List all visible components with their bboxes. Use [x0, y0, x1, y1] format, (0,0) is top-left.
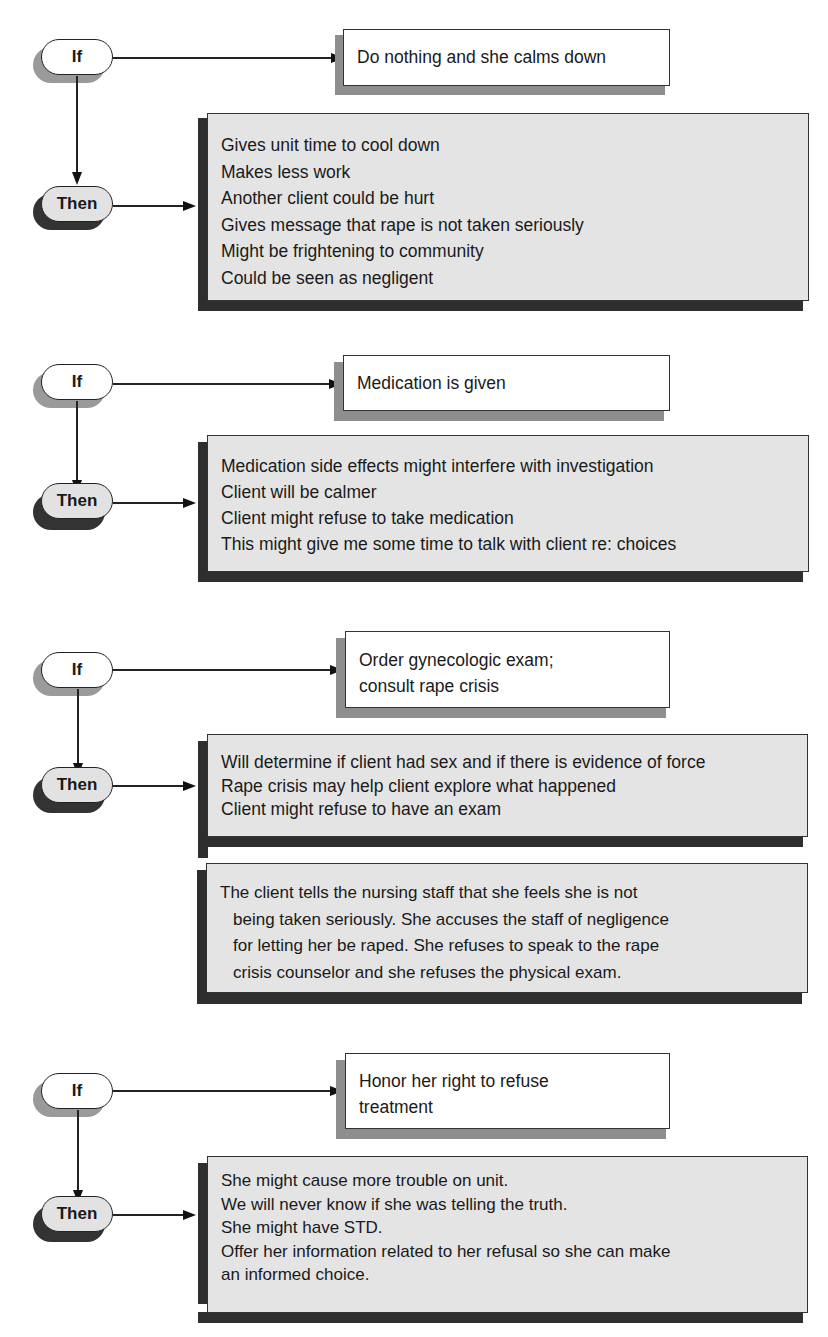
- box-shadow: [197, 870, 206, 1004]
- then-node: Then: [41, 767, 113, 803]
- connector-line: [76, 76, 78, 173]
- consequence-item: Makes less work: [221, 159, 795, 186]
- action-text: Honor her right to refuse: [359, 1068, 656, 1094]
- consequence-item: This might give me some time to talk wit…: [221, 531, 795, 557]
- then-label: Then: [57, 194, 98, 214]
- connector-line: [113, 57, 333, 59]
- consequence-item: Could be seen as negligent: [221, 265, 795, 292]
- box-shadow: [197, 992, 802, 1004]
- if-node: If: [41, 1073, 113, 1109]
- connector-line: [113, 785, 185, 787]
- box-shadow: [336, 1128, 666, 1139]
- consequence-item: Client might refuse to have an exam: [221, 798, 794, 822]
- consequence-item: Will determine if client had sex and if …: [221, 751, 794, 775]
- if-action-box: Medication is given: [343, 355, 670, 411]
- then-node: Then: [41, 483, 113, 519]
- connector-line: [113, 502, 185, 504]
- if-label: If: [72, 372, 82, 392]
- if-action-box: Do nothing and she calms down: [343, 29, 670, 86]
- arrow-right-icon: [183, 781, 196, 791]
- then-label: Then: [57, 491, 98, 511]
- then-consequences-box: Will determine if client had sex and if …: [207, 734, 808, 837]
- consequence-item: She might cause more trouble on unit.: [221, 1169, 794, 1193]
- narrative-line: crisis counselor and she refuses the phy…: [220, 960, 794, 987]
- consequence-item: Rape crisis may help client explore what…: [221, 775, 794, 799]
- consequence-item: Might be frightening to community: [221, 238, 795, 265]
- if-action-box: Order gynecologic exam; consult rape cri…: [345, 631, 670, 708]
- if-label: If: [72, 660, 82, 680]
- consequence-item: We will never know if she was telling th…: [221, 1193, 794, 1217]
- consequence-item: Gives message that rape is not taken ser…: [221, 212, 795, 239]
- box-shadow: [336, 707, 666, 718]
- then-label: Then: [57, 1204, 98, 1224]
- if-label: If: [72, 1081, 82, 1101]
- consequence-item: Gives unit time to cool down: [221, 132, 795, 159]
- if-node: If: [41, 652, 113, 688]
- arrow-right-icon: [183, 201, 196, 211]
- action-text: Order gynecologic exam;: [359, 647, 656, 673]
- box-shadow: [198, 300, 803, 311]
- then-consequences-box: Medication side effects might interfere …: [207, 435, 809, 572]
- box-shadow: [336, 638, 345, 718]
- then-consequences-box: Gives unit time to cool down Makes less …: [207, 113, 809, 301]
- narrative-line: being taken seriously. She accuses the s…: [220, 907, 794, 934]
- box-shadow: [334, 410, 664, 421]
- then-node: Then: [41, 1196, 113, 1232]
- connector-line: [113, 669, 332, 671]
- action-text: consult rape crisis: [359, 673, 656, 699]
- arrow-down-icon: [72, 172, 82, 185]
- then-label: Then: [57, 775, 98, 795]
- arrow-right-icon: [183, 498, 196, 508]
- if-node: If: [41, 39, 113, 75]
- consequence-item: Client will be calmer: [221, 479, 795, 505]
- arrow-right-icon: [183, 1210, 196, 1220]
- action-text: Medication is given: [357, 373, 656, 394]
- consequence-item: Another client could be hurt: [221, 185, 795, 212]
- connector-line: [77, 689, 79, 765]
- consequence-item: She might have STD.: [221, 1216, 794, 1240]
- narrative-line: for letting her be raped. She refuses to…: [220, 933, 794, 960]
- action-text: treatment: [359, 1094, 656, 1120]
- consequence-item: Offer her information related to her ref…: [221, 1240, 794, 1264]
- connector-line: [77, 1110, 79, 1192]
- narrative-box: The client tells the nursing staff that …: [206, 863, 808, 993]
- if-label: If: [72, 47, 82, 67]
- box-shadow: [198, 1312, 803, 1323]
- consequence-item: Client might refuse to take medication: [221, 505, 795, 531]
- box-shadow: [198, 836, 803, 847]
- connector-line: [113, 205, 185, 207]
- box-shadow: [335, 85, 665, 95]
- then-consequences-box: She might cause more trouble on unit. We…: [207, 1156, 808, 1313]
- action-text: Do nothing and she calms down: [357, 47, 656, 68]
- if-action-box: Honor her right to refuse treatment: [345, 1053, 670, 1129]
- if-node: If: [41, 364, 113, 400]
- connector-line: [76, 401, 78, 481]
- connector-line: [113, 383, 331, 385]
- box-shadow: [198, 571, 803, 582]
- consequence-item: Medication side effects might interfere …: [221, 453, 795, 479]
- connector-line: [113, 1090, 332, 1092]
- consequence-item: an informed choice.: [221, 1263, 794, 1287]
- then-node: Then: [41, 186, 113, 222]
- narrative-line: The client tells the nursing staff that …: [220, 880, 794, 907]
- connector-line: [113, 1214, 185, 1216]
